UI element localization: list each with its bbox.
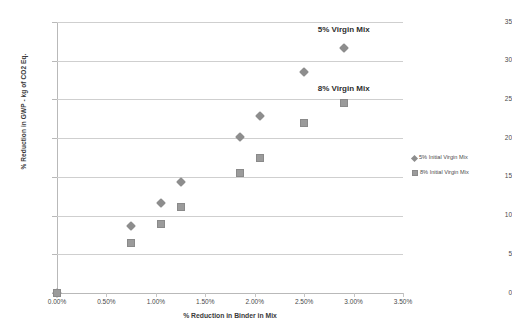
y-tick-mark	[52, 216, 57, 217]
chart-annotation: 8% Virgin Mix	[318, 84, 370, 93]
y-tick-mark	[52, 138, 57, 139]
data-point	[340, 99, 348, 107]
data-point	[300, 119, 308, 127]
gridline	[57, 99, 403, 100]
y-tick-mark	[52, 22, 57, 23]
data-point	[157, 220, 165, 228]
plot-area	[57, 22, 403, 293]
y-tick-label: 10	[466, 212, 512, 219]
x-tick-mark	[106, 293, 107, 297]
gridline	[57, 61, 403, 62]
x-tick-mark	[156, 293, 157, 297]
gridline	[57, 177, 403, 178]
x-tick-label: 0.00%	[29, 299, 85, 306]
x-axis-title: % Reduction in Binder in Mix	[57, 312, 403, 319]
scatter-chart: 05101520253035 0.00%0.50%1.00%1.50%2.00%…	[0, 0, 512, 330]
x-tick-label: 1.50%	[177, 299, 233, 306]
x-axis-line	[57, 293, 403, 294]
y-tick-label: 25	[466, 96, 512, 103]
gridline	[57, 22, 403, 23]
data-point	[256, 154, 264, 162]
y-tick-label: 5	[466, 251, 512, 258]
x-tick-mark	[403, 293, 404, 297]
y-tick-mark	[52, 254, 57, 255]
y-axis-line	[57, 22, 58, 293]
gridline	[57, 138, 403, 139]
x-tick-mark	[304, 293, 305, 297]
x-tick-label: 1.00%	[128, 299, 184, 306]
x-tick-label: 0.50%	[78, 299, 134, 306]
data-point	[236, 169, 244, 177]
x-tick-label: 2.50%	[276, 299, 332, 306]
gridline	[57, 254, 403, 255]
legend-item-5pct[interactable]: 5% Initial Virgin Mix	[412, 154, 510, 162]
x-tick-label: 3.00%	[326, 299, 382, 306]
y-tick-label: 20	[466, 135, 512, 142]
data-point	[127, 239, 135, 247]
data-point	[177, 203, 185, 211]
y-tick-mark	[52, 61, 57, 62]
legend-label: 5% Initial Virgin Mix	[419, 155, 468, 161]
diamond-marker-icon	[411, 154, 418, 161]
x-tick-mark	[205, 293, 206, 297]
legend-label: 8% Initial Virgin Mix	[420, 170, 469, 176]
x-tick-mark	[354, 293, 355, 297]
legend: 5% Initial Virgin Mix 8% Initial Virgin …	[412, 154, 510, 184]
x-tick-mark	[255, 293, 256, 297]
y-axis-title: % Reduction in GWP - kg of CO2 Eq.	[20, 37, 27, 187]
data-point	[53, 289, 61, 297]
chart-annotation: 5% Virgin Mix	[318, 25, 370, 34]
x-tick-label: 2.00%	[227, 299, 283, 306]
legend-item-8pct[interactable]: 8% Initial Virgin Mix	[412, 169, 510, 177]
y-tick-label: 0	[466, 290, 512, 297]
gridline	[57, 216, 403, 217]
square-marker-icon	[412, 170, 418, 176]
y-tick-mark	[52, 177, 57, 178]
y-tick-label: 30	[466, 57, 512, 64]
x-tick-label: 3.50%	[375, 299, 431, 306]
y-tick-mark	[52, 99, 57, 100]
y-tick-label: 35	[466, 19, 512, 26]
